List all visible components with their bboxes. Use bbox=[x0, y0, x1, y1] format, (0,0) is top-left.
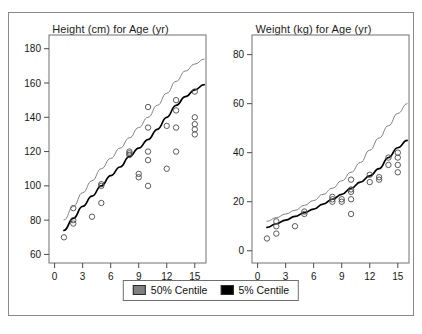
legend-entry-5-centile: 5% Centile bbox=[220, 284, 289, 296]
y-tick-label: 160 bbox=[24, 78, 41, 89]
y-tick-label: 180 bbox=[24, 43, 41, 54]
y-tick-label: 80 bbox=[233, 49, 245, 60]
plot-frame bbox=[49, 35, 206, 263]
x-tick-label: 9 bbox=[339, 271, 345, 281]
figure-outer-frame: Height (cm) for Age (yr) 608010012014016… bbox=[8, 12, 414, 316]
x-tick-label: 6 bbox=[108, 271, 114, 281]
legend-entry-50-centile: 50% Centile bbox=[133, 284, 208, 296]
y-tick-label: 60 bbox=[233, 98, 245, 109]
y-tick-label: 0 bbox=[238, 245, 244, 256]
x-tick-label: 15 bbox=[392, 271, 404, 281]
x-tick-label: 3 bbox=[80, 271, 86, 281]
chart-legend: 50% Centile 5% Centile bbox=[123, 280, 299, 301]
y-tick-label: 140 bbox=[24, 112, 41, 123]
legend-swatch-50-centile bbox=[133, 285, 146, 295]
x-tick-label: 6 bbox=[311, 271, 317, 281]
y-tick-label: 20 bbox=[233, 196, 245, 207]
panel-height-for-age: Height (cm) for Age (yr) 608010012014016… bbox=[9, 13, 212, 281]
legend-label-5-centile: 5% Centile bbox=[238, 284, 289, 296]
y-tick-label: 40 bbox=[233, 147, 245, 158]
plot-weight-for-age: 02040608003691215 bbox=[212, 13, 415, 281]
plot-height-for-age: 608010012014016018003691215 bbox=[9, 13, 212, 281]
chart-figure: Height (cm) for Age (yr) 608010012014016… bbox=[0, 0, 422, 334]
y-tick-label: 60 bbox=[30, 249, 42, 260]
x-tick-label: 0 bbox=[52, 271, 58, 281]
y-tick-label: 80 bbox=[30, 215, 42, 226]
panel-weight-for-age: Weight (kg) for Age (yr) 020406080036912… bbox=[212, 13, 415, 281]
x-tick-label: 12 bbox=[364, 271, 376, 281]
y-tick-label: 100 bbox=[24, 180, 41, 191]
legend-label-50-centile: 50% Centile bbox=[151, 284, 208, 296]
y-tick-label: 120 bbox=[24, 146, 41, 157]
legend-swatch-5-centile bbox=[220, 285, 233, 295]
